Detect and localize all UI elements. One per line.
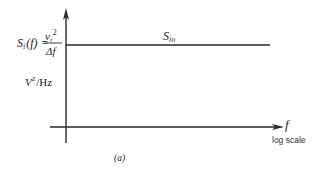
x-axis-scale-note: log scale bbox=[272, 135, 306, 145]
figure-caption: (a) bbox=[114, 153, 125, 164]
formula-numerator: vi2 bbox=[45, 28, 57, 44]
curve-label: Sio bbox=[163, 29, 175, 44]
x-axis-label: f bbox=[285, 117, 291, 132]
y-axis-unit: V2/Hz bbox=[25, 75, 52, 88]
y-axis-formula: Si(f) = vi2 Δf bbox=[17, 28, 62, 57]
formula-denominator: Δf bbox=[45, 45, 57, 57]
spectral-density-diagram: Sio Si(f) = vi2 Δf V2/Hz f log scale (a) bbox=[0, 0, 324, 169]
formula-lhs: Si(f) = bbox=[17, 36, 49, 51]
